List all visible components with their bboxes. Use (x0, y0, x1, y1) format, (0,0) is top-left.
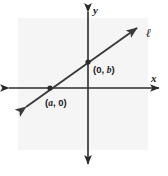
line-label-ell: ℓ (146, 26, 151, 40)
point-label-y-intercept-suffix: ) (111, 64, 114, 75)
coordinate-plane-figure: y x ℓ (0, b) (a, 0) (0, 0, 168, 176)
point-x-intercept-dot (47, 85, 52, 90)
graph-canvas: y x ℓ (0, b) (a, 0) (0, 0, 168, 176)
point-label-x-intercept-suffix: , 0) (53, 97, 67, 108)
point-y-intercept-dot (85, 59, 90, 64)
point-label-y-intercept: (0, b) (93, 64, 115, 75)
point-label-x-intercept: (a, 0) (45, 97, 67, 108)
x-axis-label: x (150, 72, 157, 84)
point-label-y-intercept-prefix: (0, (93, 64, 107, 75)
y-axis-label: y (91, 4, 98, 16)
plot-panel (18, 18, 148, 150)
